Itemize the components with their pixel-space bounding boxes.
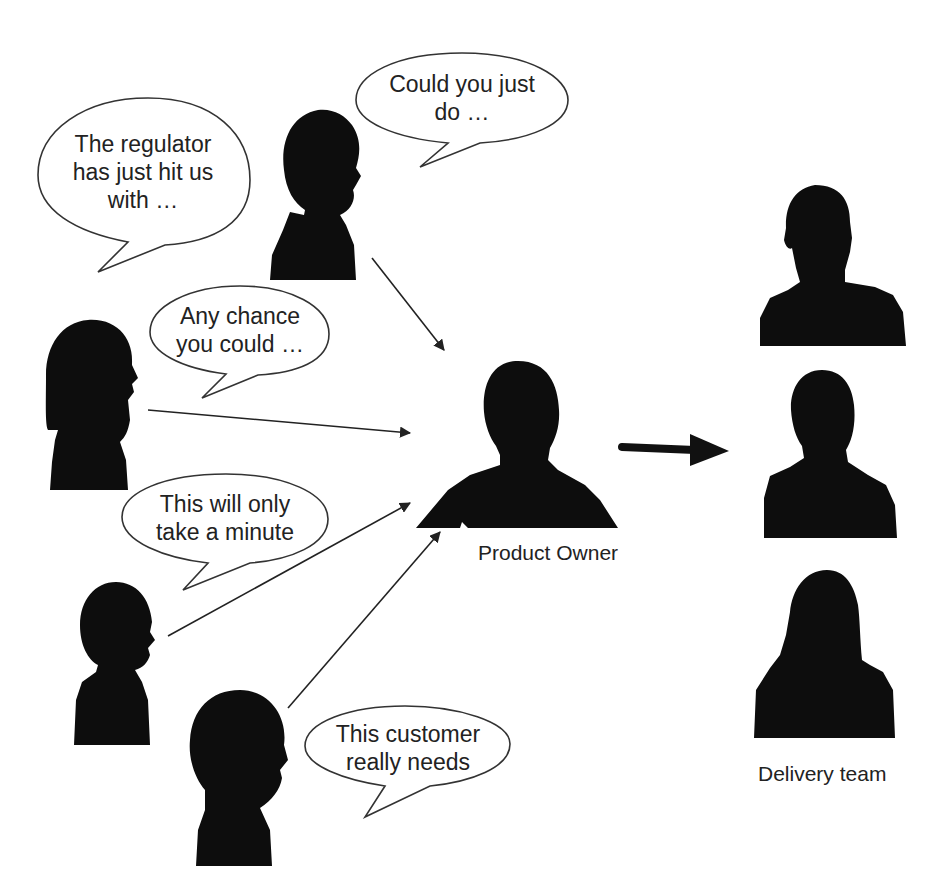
person-silhouette-any-chance [46, 320, 138, 490]
bubble-line: Any chance [150, 302, 330, 330]
product-owner-label: Product Owner [478, 541, 618, 565]
bubble-text-regulator: The regulator has just hit us with … [48, 130, 238, 214]
bubble-text-minute: This will only take a minute [125, 490, 325, 546]
bubble-line: This will only [125, 490, 325, 518]
person-silhouette-customer [190, 690, 288, 866]
person-silhouette-team-member-1 [760, 185, 906, 346]
bubble-line: do … [362, 98, 562, 126]
bubble-line: take a minute [125, 518, 325, 546]
person-silhouette-team-member-3 [754, 570, 895, 738]
bubble-line: you could … [150, 330, 330, 358]
bubble-line: This customer [308, 720, 508, 748]
person-silhouette-could-you [270, 110, 361, 280]
bubble-line: The regulator [48, 130, 238, 158]
person-silhouette-minute [74, 582, 155, 745]
bubble-line: Could you just [362, 70, 562, 98]
bubble-text-customer: This customer really needs [308, 720, 508, 776]
bubble-line: really needs [308, 748, 508, 776]
delivery-team-label: Delivery team [758, 762, 886, 786]
person-silhouette-product-owner [416, 361, 618, 528]
bubble-text-any-chance: Any chance you could … [150, 302, 330, 358]
bubble-text-could-you: Could you just do … [362, 70, 562, 126]
stakeholder-diagram: The regulator has just hit us with … Cou… [0, 0, 943, 896]
bubble-line: has just hit us [48, 158, 238, 186]
person-silhouette-team-member-2 [764, 370, 897, 538]
bubble-line: with … [48, 186, 238, 214]
